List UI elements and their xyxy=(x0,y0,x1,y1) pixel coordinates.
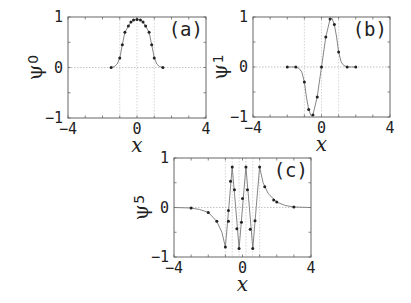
data-point xyxy=(263,185,266,188)
data-point xyxy=(161,66,164,69)
figure: −404−101xψ0(a) −404−101xψ1(b) −404−101xψ… xyxy=(0,0,411,303)
x-axis-label: x xyxy=(131,133,142,157)
data-point xyxy=(303,81,306,84)
y-tick-label: −1 xyxy=(230,108,248,126)
y-axis-label: ψ5 xyxy=(129,195,153,221)
data-point xyxy=(150,43,153,46)
data-point xyxy=(142,21,145,24)
data-point xyxy=(249,228,252,231)
data-point xyxy=(129,21,132,24)
y-tick-label: 1 xyxy=(160,149,169,167)
x-tick-label: 4 xyxy=(306,259,315,277)
y-tick-label: 0 xyxy=(239,58,248,76)
data-point xyxy=(118,56,121,59)
data-point xyxy=(132,19,135,22)
data-point xyxy=(337,51,340,54)
data-point xyxy=(275,201,278,204)
x-tick-label: 4 xyxy=(201,120,210,138)
x-axis-label: x xyxy=(237,272,248,296)
data-point xyxy=(127,25,130,28)
panel-tag: (c) xyxy=(274,159,308,181)
y-tick-label: −1 xyxy=(45,109,63,127)
data-point xyxy=(207,211,210,214)
data-point xyxy=(258,165,261,168)
data-point xyxy=(354,66,357,69)
data-point xyxy=(121,43,124,46)
data-point xyxy=(190,206,193,209)
panel-tag: (b) xyxy=(353,18,387,40)
data-point xyxy=(238,247,241,250)
data-point xyxy=(254,219,257,222)
data-point xyxy=(320,66,323,69)
data-point xyxy=(227,209,230,212)
y-axis-label: ψ1 xyxy=(208,54,232,80)
data-point xyxy=(136,18,139,21)
y-tick-label: 0 xyxy=(54,59,63,77)
data-point xyxy=(139,19,142,22)
data-point xyxy=(240,221,243,224)
data-point xyxy=(294,66,297,69)
x-tick-label: 4 xyxy=(385,119,394,137)
data-point xyxy=(227,220,230,223)
panel-b: −404−101xψ1(b) xyxy=(208,8,395,156)
data-point xyxy=(148,31,151,34)
data-point xyxy=(316,96,319,99)
x-axis-label: x xyxy=(316,132,327,156)
y-tick-label: −1 xyxy=(151,248,169,266)
data-point xyxy=(241,197,244,200)
panel-a: −404−101xψ0(a) xyxy=(23,8,211,157)
data-point xyxy=(231,165,234,168)
data-point xyxy=(292,206,295,209)
data-point xyxy=(307,108,310,111)
y-axis-label: ψ0 xyxy=(23,55,47,81)
data-point xyxy=(235,227,238,230)
data-point xyxy=(346,66,349,69)
data-point xyxy=(311,114,314,117)
data-point xyxy=(224,246,227,249)
data-point xyxy=(329,18,332,21)
y-tick-label: 0 xyxy=(160,199,169,217)
data-point xyxy=(324,36,327,39)
data-point xyxy=(286,66,289,69)
data-point xyxy=(251,247,254,250)
data-point xyxy=(233,188,236,191)
data-point xyxy=(333,23,336,26)
data-point xyxy=(246,188,249,191)
data-point xyxy=(153,56,156,59)
data-point xyxy=(229,180,232,183)
panel-c: −404−101xψ5(c) xyxy=(129,149,316,296)
panel-tag: (a) xyxy=(169,18,203,40)
y-tick-label: 1 xyxy=(54,8,63,26)
data-point xyxy=(244,165,247,168)
data-point xyxy=(215,220,218,223)
data-point xyxy=(144,25,147,28)
data-point xyxy=(123,31,126,34)
data-point xyxy=(110,66,113,69)
y-tick-label: 1 xyxy=(239,8,248,26)
data-point xyxy=(272,199,275,202)
